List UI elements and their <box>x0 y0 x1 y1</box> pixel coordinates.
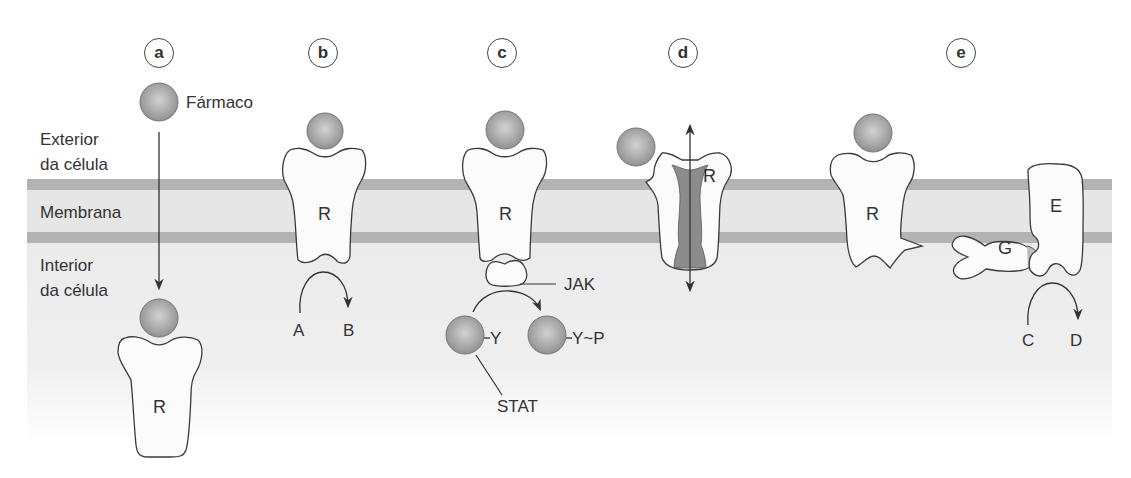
membrane-label: Membrana <box>40 200 121 225</box>
drug-sphere-a-inside <box>140 299 178 337</box>
exterior-label-line1: Exterior <box>40 127 108 152</box>
exterior-label: Exterior da célula <box>40 127 108 177</box>
panel-label-d: d <box>668 38 698 68</box>
interior-label-line1: Interior <box>40 253 108 278</box>
stat-yp-label: Y~P <box>572 328 605 349</box>
product-label-b: B <box>343 320 354 341</box>
stat-label: STAT <box>497 396 538 417</box>
jak-label: JAK <box>564 274 595 295</box>
membrane-core <box>27 190 1112 232</box>
drug-sphere-d <box>617 128 655 166</box>
exterior-label-line2: da célula <box>40 152 108 177</box>
panel-label-c: c <box>487 38 517 68</box>
stat-sphere-phosphorylated <box>528 316 566 354</box>
jak-kinase <box>486 261 527 287</box>
drug-sphere-e <box>854 114 892 152</box>
receptor-label-a: R <box>153 397 166 418</box>
substrate-label-b: A <box>293 320 304 341</box>
panel-label-e: e <box>946 38 976 68</box>
stat-sphere-unphosphorylated <box>446 316 484 354</box>
stat-y-label: Y <box>490 328 501 349</box>
panel-label-b: b <box>308 38 338 68</box>
substrate-label-e: C <box>1022 330 1034 351</box>
effector-enzyme-e <box>1028 164 1083 276</box>
drug-sphere-b <box>307 113 343 149</box>
drug-sphere-c <box>486 111 524 149</box>
product-label-e: D <box>1070 330 1082 351</box>
receptor-label-c: R <box>499 204 512 225</box>
effector-label: E <box>1050 196 1062 217</box>
receptor-label-e: R <box>866 204 879 225</box>
receptor-label-d: R <box>703 166 716 187</box>
drug-sphere-a-outside <box>140 83 178 121</box>
diagram-canvas <box>0 0 1131 478</box>
panel-label-a: a <box>144 38 174 68</box>
interior-label-line2: da célula <box>40 278 108 303</box>
drug-label: Fármaco <box>186 92 253 113</box>
membrane-outer-band <box>27 179 1112 190</box>
g-protein-label: G <box>998 238 1012 259</box>
receptor-label-b: R <box>318 204 331 225</box>
membrane-inner-band <box>27 232 1112 243</box>
interior-label: Interior da célula <box>40 253 108 303</box>
